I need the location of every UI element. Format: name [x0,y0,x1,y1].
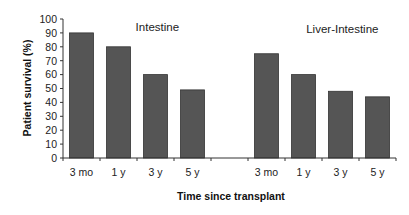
bar-intestine-1y [106,47,130,158]
y-tick-label: 50 [45,82,57,94]
y-tick-label: 60 [45,68,57,80]
y-tick-label: 90 [45,27,57,39]
y-tick-label: 30 [45,110,57,122]
group-title: Liver-Intestine [306,23,378,35]
x-tick-label: 5 y [185,166,200,178]
x-tick-label: 3 y [333,166,348,178]
bar-liver-intestine-3mo [254,54,278,158]
x-tick-label: 1 y [296,166,311,178]
y-tick-label: 0 [51,152,57,164]
bar-intestine-3mo [69,33,93,158]
y-tick-label: 20 [45,124,57,136]
bar-intestine-5y [180,90,204,158]
y-tick-label: 100 [39,13,57,25]
y-tick-label: 70 [45,55,57,67]
group-title: Intestine [136,21,179,33]
y-tick-label: 80 [45,41,57,53]
bar-intestine-3y [143,75,167,158]
x-axis-title: Time since transplant [177,190,285,202]
y-axis-title: Patient survival (%) [21,40,33,137]
y-tick-label: 40 [45,96,57,108]
x-tick-label: 1 y [111,166,126,178]
bar-liver-intestine-1y [291,75,315,158]
bar-liver-intestine-5y [365,97,389,158]
x-tick-label: 3 mo [255,166,279,178]
x-tick-label: 5 y [370,166,385,178]
survival-bar-chart: 01020304050607080901003 mo1 y3 y5 y3 mo1… [0,0,409,215]
bar-liver-intestine-3y [328,91,352,158]
y-tick-label: 10 [45,138,57,150]
bars-layer [69,33,389,158]
x-tick-label: 3 y [148,166,163,178]
x-tick-label: 3 mo [70,166,94,178]
